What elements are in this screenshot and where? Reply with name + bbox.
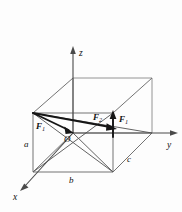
dimension-label-c: c: [127, 154, 131, 164]
dimension-label-a: a: [24, 139, 29, 149]
x-axis-arrowhead: [20, 184, 29, 191]
y-axis-label: y: [166, 140, 172, 150]
figure-labels: z y x O a b c F1 F2 F1: [12, 48, 172, 202]
diagonal-base-right: [73, 133, 113, 172]
vector-label-F1-vertical: F1: [118, 114, 128, 125]
origin-label: O: [64, 134, 71, 144]
box-edge-receding-top-left: [33, 78, 73, 113]
figure-container: z y x O a b c F1 F2 F1: [0, 0, 182, 212]
box-edge-receding-bottom-right: [113, 133, 152, 172]
box-force-diagram: z y x O a b c F1 F2 F1: [0, 0, 182, 212]
y-axis-arrowhead: [170, 130, 178, 136]
z-axis-label: z: [78, 48, 83, 58]
z-axis-arrowhead: [70, 46, 76, 54]
x-axis-label: x: [12, 192, 18, 202]
vector-label-F2: F2: [92, 112, 102, 123]
box-edge-receding-top-right: [113, 78, 152, 113]
dimension-label-b: b: [69, 175, 74, 185]
vector-label-F1-diagonal: F1: [35, 121, 45, 132]
